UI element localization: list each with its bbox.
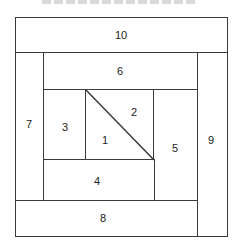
piece-8 bbox=[15, 200, 198, 237]
label-4: 4 bbox=[94, 176, 100, 187]
label-10: 10 bbox=[115, 30, 127, 41]
label-6: 6 bbox=[117, 66, 123, 77]
label-2: 2 bbox=[131, 107, 137, 118]
label-9: 9 bbox=[208, 135, 214, 146]
label-8: 8 bbox=[100, 213, 106, 224]
piece-center bbox=[85, 89, 155, 161]
label-1: 1 bbox=[102, 135, 108, 146]
label-7: 7 bbox=[26, 119, 32, 130]
label-5: 5 bbox=[172, 143, 178, 154]
label-3: 3 bbox=[62, 122, 68, 133]
quilt-block-diagram: 10 6 7 3 2 1 5 9 4 8 bbox=[0, 0, 242, 250]
